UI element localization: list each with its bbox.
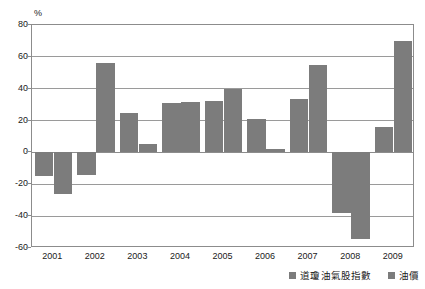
legend-entry-2[interactable]: 油價 bbox=[388, 268, 419, 282]
bar-2007-series-1 bbox=[290, 99, 309, 152]
x-axis-tick-label-2004: 2004 bbox=[170, 251, 190, 261]
bar-2005-series-1 bbox=[205, 101, 224, 153]
x-axis-tick-label-2003: 2003 bbox=[127, 251, 147, 261]
bar-2004-series-2 bbox=[181, 102, 200, 152]
y-axis-tick-label: 60 bbox=[4, 51, 28, 61]
legend-swatch-icon bbox=[388, 272, 395, 279]
gridline-40 bbox=[32, 88, 413, 89]
x-axis-tick-label-2006: 2006 bbox=[255, 251, 275, 261]
bar-2004-series-1 bbox=[162, 103, 181, 152]
chart-legend: 道瓊油氣股指數油價 bbox=[289, 268, 419, 282]
legend-label: 油價 bbox=[399, 268, 419, 282]
x-axis-tick-label-2002: 2002 bbox=[85, 251, 105, 261]
y-axis-unit-label: % bbox=[34, 8, 42, 18]
plot-area bbox=[31, 24, 414, 247]
bar-2001-series-2 bbox=[54, 152, 73, 193]
x-axis-tick-label-2001: 2001 bbox=[42, 251, 62, 261]
y-axis-tick-label: -20 bbox=[4, 178, 28, 188]
y-axis-tick-label: 0 bbox=[4, 146, 28, 156]
bar-2006-series-2 bbox=[266, 149, 285, 152]
legend-swatch-icon bbox=[289, 272, 296, 279]
x-axis-tick-label-2008: 2008 bbox=[340, 251, 360, 261]
bar-2009-series-1 bbox=[375, 127, 394, 152]
legend-entry-1[interactable]: 道瓊油氣股指數 bbox=[289, 268, 371, 282]
bar-2002-series-1 bbox=[77, 152, 96, 174]
bar-2003-series-2 bbox=[139, 144, 158, 153]
y-axis-tick-label: -60 bbox=[4, 242, 28, 252]
bar-2008-series-2 bbox=[351, 152, 370, 239]
x-axis-tick-label-2005: 2005 bbox=[212, 251, 232, 261]
legend-label: 道瓊油氣股指數 bbox=[300, 268, 371, 282]
y-axis-tick-label: 40 bbox=[4, 83, 28, 93]
y-axis-tick-label: -40 bbox=[4, 210, 28, 220]
bar-2007-series-2 bbox=[309, 65, 328, 153]
bar-2005-series-2 bbox=[224, 89, 243, 153]
y-axis-tick-mark bbox=[26, 247, 31, 248]
bar-2002-series-2 bbox=[96, 63, 115, 152]
oil-gas-index-bar-chart: % 806040200-20-40-60 2001200220032004200… bbox=[0, 0, 425, 289]
y-axis-tick-label: 20 bbox=[4, 115, 28, 125]
x-axis-tick-label-2009: 2009 bbox=[383, 251, 403, 261]
gridline-60 bbox=[32, 56, 413, 57]
x-axis-tick-label-2007: 2007 bbox=[298, 251, 318, 261]
y-axis-tick-label: 80 bbox=[4, 19, 28, 29]
bar-2009-series-2 bbox=[394, 41, 413, 153]
bar-2001-series-1 bbox=[35, 152, 54, 175]
bar-2003-series-1 bbox=[120, 113, 139, 153]
bar-2006-series-1 bbox=[247, 119, 266, 152]
bar-2008-series-1 bbox=[332, 152, 351, 213]
